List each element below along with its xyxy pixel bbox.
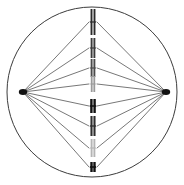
metaphase-diagram [0, 0, 184, 185]
left-centrosome [19, 89, 27, 95]
cell-diagram-svg [0, 0, 184, 185]
right-centrosome [162, 89, 170, 95]
